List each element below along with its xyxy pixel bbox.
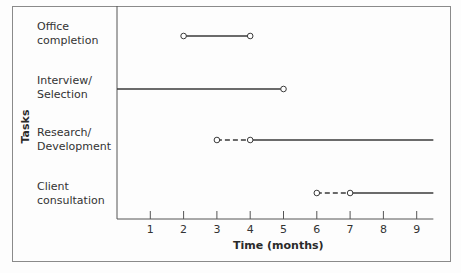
milestone-marker [181, 33, 187, 39]
x-tick-label: 1 [144, 223, 156, 236]
x-tick-label: 9 [411, 223, 423, 236]
milestone-marker [347, 190, 353, 196]
milestone-marker [214, 137, 220, 143]
x-axis-label: Time (months) [233, 239, 324, 252]
x-tick-label: 2 [178, 223, 190, 236]
x-tick-label: 7 [344, 223, 356, 236]
x-tick-label: 5 [278, 223, 290, 236]
plot-area [0, 0, 461, 273]
x-tick-label: 8 [377, 223, 389, 236]
milestone-marker [314, 190, 320, 196]
x-tick-label: 6 [311, 223, 323, 236]
milestone-marker [247, 137, 253, 143]
milestone-marker [281, 86, 287, 92]
x-tick-label: 4 [244, 223, 256, 236]
milestone-marker [247, 33, 253, 39]
x-tick-label: 3 [211, 223, 223, 236]
